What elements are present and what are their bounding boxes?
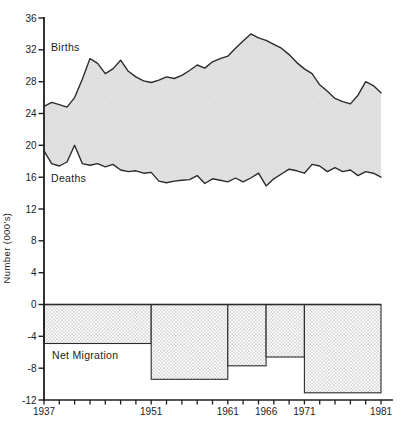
y-tick-label: 0: [31, 299, 37, 310]
net-migration-bar: [151, 305, 228, 380]
net-migration-label: Net Migration: [52, 349, 118, 361]
net-migration-bar: [44, 305, 151, 344]
births-deaths-band: [44, 34, 381, 186]
chart-canvas: 36322824201612840-4-8-121937195119611966…: [0, 0, 420, 429]
net-migration-bar: [228, 305, 266, 366]
x-tick-label: 1971: [293, 406, 316, 417]
y-tick-label: 12: [25, 204, 37, 215]
y-tick-label: -8: [28, 363, 37, 374]
x-tick-label: 1961: [217, 406, 240, 417]
y-tick-label: 32: [25, 44, 37, 55]
x-tick-label: 1951: [140, 406, 163, 417]
y-tick-label: -4: [28, 331, 37, 342]
x-tick-label: 1937: [33, 406, 56, 417]
y-tick-label: 24: [25, 108, 37, 119]
net-migration-bar: [304, 305, 381, 393]
net-migration-bar: [266, 305, 304, 358]
y-axis-title: Number (000's): [1, 213, 12, 284]
y-tick-label: 4: [31, 267, 37, 278]
y-tick-label: 16: [25, 172, 37, 183]
y-tick-label: -12: [22, 395, 37, 406]
y-tick-label: 36: [25, 13, 37, 24]
x-tick-label: 1966: [255, 406, 278, 417]
deaths-series-label: Deaths: [51, 172, 86, 184]
chart-figure: 36322824201612840-4-8-121937195119611966…: [0, 0, 420, 429]
x-tick-label: 1981: [370, 406, 393, 417]
y-tick-label: 28: [25, 76, 37, 87]
y-tick-label: 20: [25, 140, 37, 151]
y-tick-label: 8: [31, 235, 37, 246]
births-series-label: Births: [51, 41, 80, 53]
